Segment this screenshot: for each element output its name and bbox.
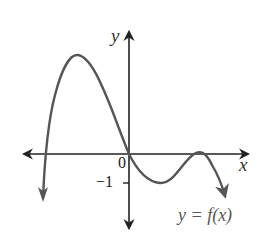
origin-label: 0: [118, 155, 126, 171]
x-axis-label: x: [239, 155, 247, 174]
function-label: y = f(x): [178, 206, 232, 224]
graph-canvas: y x 0 −1 y = f(x): [0, 0, 260, 240]
function-curve: [43, 55, 225, 198]
y-axis-label: y: [111, 26, 119, 45]
y-tick-label-neg1: −1: [96, 174, 113, 190]
graph-svg: [0, 0, 260, 240]
